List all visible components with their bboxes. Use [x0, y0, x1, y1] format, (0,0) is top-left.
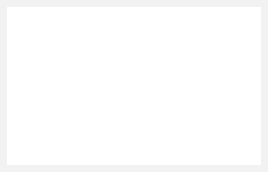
- label-r-left: R: [104, 70, 112, 82]
- physics-figure: L 1 α 1 S 1 O 1 S 2 R F R F L 2 α 2 S 2 …: [0, 0, 268, 172]
- angle-arc-alpha1: [22, 92, 56, 124]
- label-o2: O: [187, 76, 196, 88]
- angle-arc-alpha2: [177, 126, 243, 147]
- label-alpha2-sub: 2: [210, 154, 214, 163]
- label-alpha2: α: [201, 148, 208, 160]
- label-alpha1-sub: 1: [20, 121, 24, 130]
- label-s1-right-sub: 1: [229, 84, 233, 93]
- label-l1-sub: 1: [27, 44, 31, 53]
- label-l1: L: [17, 38, 24, 50]
- label-f-left: F: [84, 155, 93, 167]
- label-s2-left-sub: 2: [70, 101, 74, 110]
- label-l2: L: [239, 24, 246, 36]
- label-r-right: R: [132, 58, 140, 70]
- label-alpha1: α: [11, 115, 18, 127]
- label-s1-left: S: [35, 70, 41, 82]
- label-o2-sub: 2: [196, 82, 200, 91]
- label-s1-right: S: [221, 78, 227, 90]
- label-s2-right-sub: 2: [199, 61, 203, 70]
- diagram-canvas: L 1 α 1 S 1 O 1 S 2 R F R F L 2 α 2 S 2 …: [0, 0, 268, 172]
- label-s2-right: S: [191, 55, 197, 67]
- label-l2-sub: 2: [249, 30, 253, 39]
- right-roller-outline: [163, 30, 253, 120]
- label-f-right: F: [158, 2, 167, 14]
- label-o1-sub: 1: [67, 83, 71, 92]
- label-s2-left: S: [62, 95, 68, 107]
- label-s1-left-sub: 1: [43, 76, 47, 85]
